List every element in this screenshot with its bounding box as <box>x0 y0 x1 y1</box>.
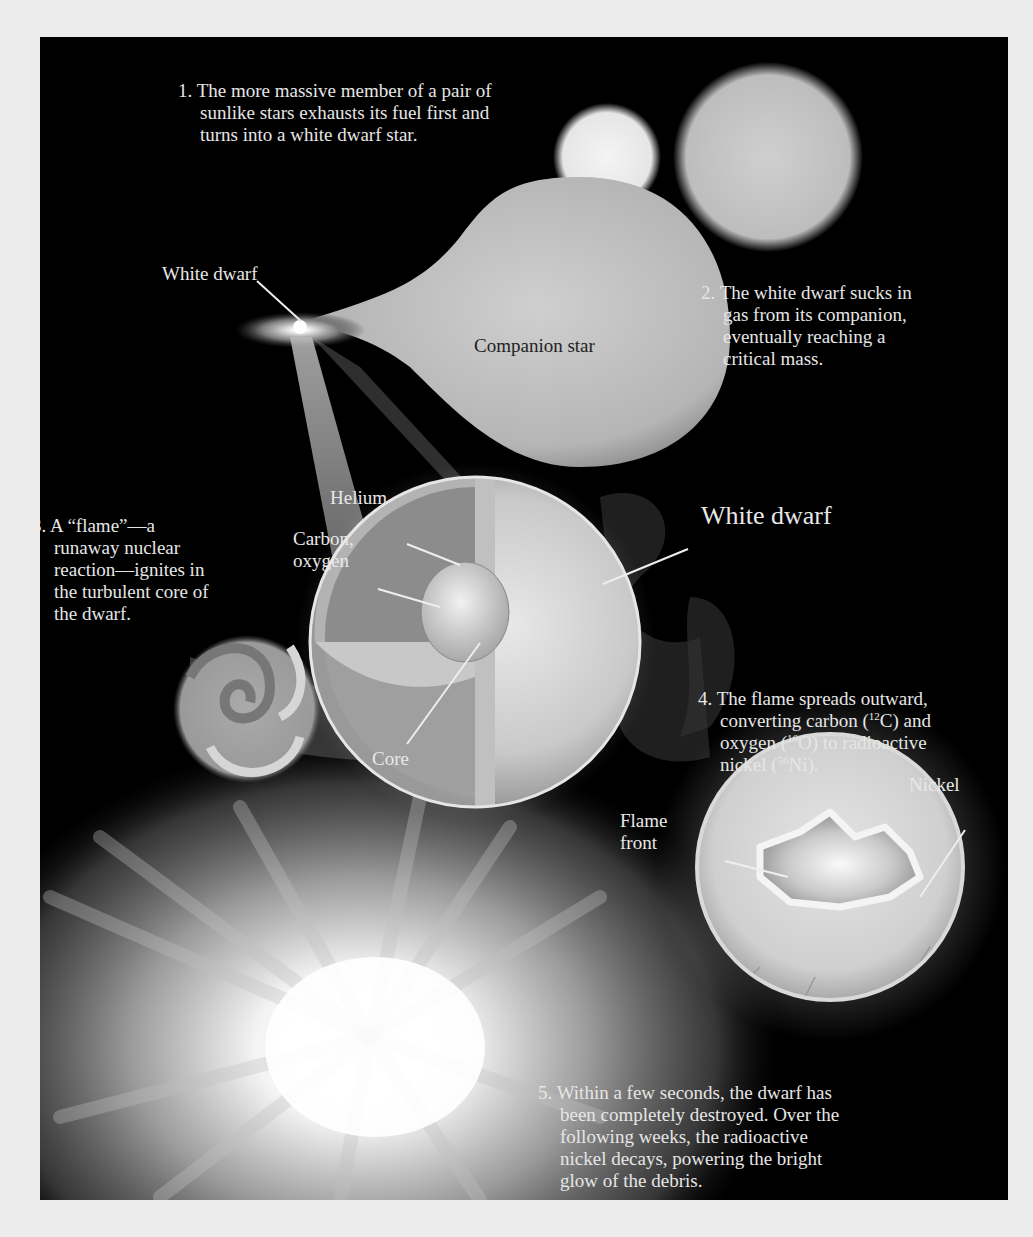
label-helium: Helium <box>330 487 387 509</box>
label-carbon: Carbon, <box>293 528 354 549</box>
step-4-line-3-pre: oxygen ( <box>720 732 787 753</box>
nickel-isotope-mass: 56 <box>778 754 789 766</box>
step-5-text: 5. Within a few seconds, the dwarf has b… <box>538 1082 839 1192</box>
label-white-dwarf-small: White dwarf <box>162 263 257 285</box>
step-2-text: 2. The white dwarf sucks in gas from its… <box>701 282 912 370</box>
step-2-line-4: critical mass. <box>723 348 823 369</box>
label-carbon-oxygen: Carbon, oxygen <box>293 528 354 572</box>
step-1-line-3: turns into a white dwarf star. <box>200 124 417 145</box>
label-companion-star: Companion star <box>474 335 595 357</box>
step-3-line-4: the turbulent core of <box>54 581 209 602</box>
step-5-line-4: nickel decays, powering the bright <box>560 1148 822 1169</box>
label-nickel: Nickel <box>909 774 960 796</box>
sunlike-star <box>673 62 863 252</box>
step-1-line-2: sunlike stars exhausts its fuel first an… <box>200 102 489 123</box>
step-4-number: 4. <box>698 688 712 709</box>
step-4-line-1: The flame spreads outward, <box>717 688 928 709</box>
label-flame-front: Flame front <box>620 810 668 854</box>
step-2-line-3: eventually reaching a <box>723 326 885 347</box>
label-white-dwarf-large: White dwarf <box>701 505 832 527</box>
step-3-text: 3. A “flame”—a runaway nuclear reaction—… <box>40 515 209 625</box>
step-3-number: 3. <box>40 515 46 536</box>
carbon-isotope-mass: 12 <box>869 710 880 722</box>
step-2-number: 2. <box>701 282 715 303</box>
label-front: front <box>620 832 657 853</box>
step-1-number: 1. <box>178 80 192 101</box>
step-5-line-3: following weeks, the radioactive <box>560 1126 808 1147</box>
step-3-line-1: A “flame”—a <box>50 515 155 536</box>
step-5-line-5: glow of the debris. <box>560 1170 702 1191</box>
step-3-line-5: the dwarf. <box>54 603 131 624</box>
step-5-line-2: been completely destroyed. Over the <box>560 1104 839 1125</box>
step-5-number: 5. <box>538 1082 552 1103</box>
oxygen-isotope-mass: 16 <box>787 732 798 744</box>
step-3-line-3: reaction—ignites in <box>54 559 204 580</box>
step-5-line-1: Within a few seconds, the dwarf has <box>557 1082 832 1103</box>
step-4-line-3-post: O) to radioactive <box>798 732 927 753</box>
step-4-line-2-post: C) and <box>880 710 931 731</box>
label-flame: Flame <box>620 810 668 831</box>
diagram-panel: 1. The more massive member of a pair of … <box>40 37 1008 1200</box>
label-core: Core <box>372 748 409 770</box>
step-4-line-4-pre: nickel ( <box>720 754 778 775</box>
step-1-text: 1. The more massive member of a pair of … <box>178 80 492 146</box>
step-2-line-1: The white dwarf sucks in <box>720 282 912 303</box>
step-4-line-4-post: Ni). <box>789 754 819 775</box>
step-2-line-2: gas from its companion, <box>723 304 907 325</box>
step-4-line-2-pre: converting carbon ( <box>720 710 869 731</box>
label-oxygen: oxygen <box>293 550 349 571</box>
step-3-line-2: runaway nuclear <box>54 537 180 558</box>
step-4-text: 4. The flame spreads outward, converting… <box>698 688 931 776</box>
step-1-line-1: The more massive member of a pair of <box>197 80 492 101</box>
